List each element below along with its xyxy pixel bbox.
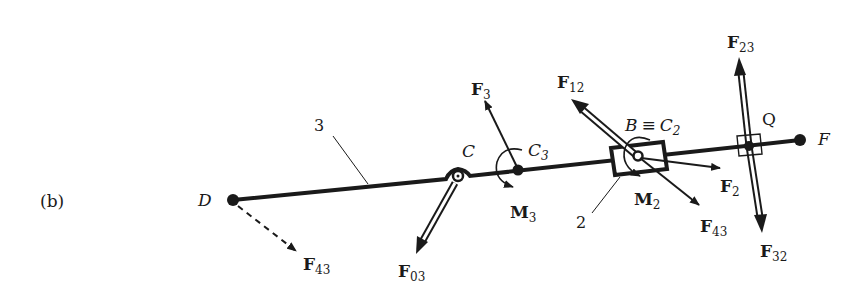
force-f23-label: F23 xyxy=(727,32,754,55)
joint-c-center xyxy=(457,175,460,178)
point-c3-label: C3 xyxy=(528,140,549,163)
force-f2-label: F2 xyxy=(720,176,740,199)
force-f23-arrow xyxy=(734,57,749,146)
slider-2-leader xyxy=(592,177,620,213)
point-q xyxy=(744,141,754,151)
member-3-leader xyxy=(333,136,368,184)
point-d-label: D xyxy=(197,190,212,210)
force-f43-dashed-arrow xyxy=(238,206,296,251)
member-3-label: 3 xyxy=(314,116,324,135)
force-f3-label: F3 xyxy=(471,79,491,102)
point-q-label: Q xyxy=(762,109,776,129)
point-c-label: C xyxy=(462,141,475,161)
force-f32-label: F32 xyxy=(760,241,787,264)
point-f xyxy=(794,134,806,146)
force-f12-label: F12 xyxy=(557,72,584,95)
force-f03-arrow xyxy=(416,183,455,254)
point-c3 xyxy=(513,165,524,176)
force-f3-arrow xyxy=(485,101,517,167)
panel-label: (b) xyxy=(40,191,64,211)
force-f32-arrow xyxy=(749,146,767,233)
force-f03-label: F03 xyxy=(398,261,425,284)
moment-m2-label: M2 xyxy=(634,189,660,212)
free-body-diagram: (b) 3 D F43 C F03 C3 F3 M3 xyxy=(0,0,863,300)
force-f43-d-label: F43 xyxy=(303,254,330,277)
point-b-label: B≡C2 xyxy=(624,115,680,138)
slider-2-label: 2 xyxy=(576,213,586,232)
force-f43-b-label: F43 xyxy=(700,216,727,239)
joint-d xyxy=(227,194,239,206)
point-f-label: F xyxy=(817,129,831,149)
moment-m3-label: M3 xyxy=(510,202,536,225)
